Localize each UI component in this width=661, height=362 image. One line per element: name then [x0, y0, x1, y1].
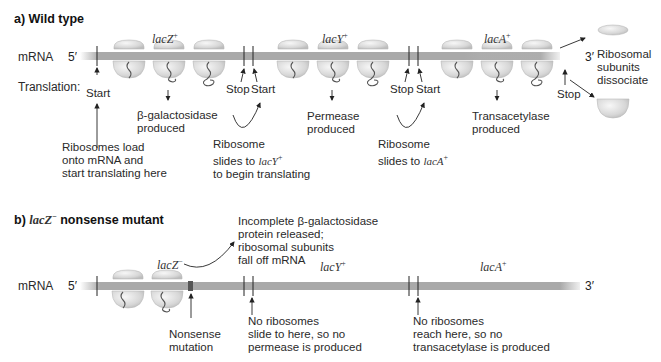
gene-label-lacy: lacY+	[322, 31, 348, 47]
gene-label-laca: lacA+	[484, 31, 511, 47]
small-subunit-icon	[598, 25, 628, 35]
large-subunit-icon	[597, 99, 629, 118]
ribosome-group-a	[113, 25, 629, 118]
three-prime-label-b: 3′	[585, 279, 594, 293]
note-ribosomes-load: Ribosomes loadonto mRNA andstart transla…	[62, 141, 167, 180]
three-prime-label: 3′	[585, 50, 594, 64]
stop-marker-lacy: Stop	[390, 83, 414, 96]
five-prime-label: 5′	[68, 50, 77, 64]
diagram-graphics	[0, 0, 661, 362]
note-no-permease: No ribosomesslide to here, so nopermease…	[248, 315, 362, 354]
start-marker-lacz: Start	[86, 87, 110, 100]
translation-label: Translation:	[18, 80, 80, 94]
nonsense-mutation-marker	[188, 281, 193, 291]
product-transacetylase: Transacetylaseproduced	[472, 110, 550, 136]
start-marker-lacy: Start	[251, 83, 275, 96]
gene-label-laca-b: lacA+	[480, 259, 507, 275]
product-permease: Permeaseproduced	[307, 110, 359, 136]
gene-label-lacz-minus: lacZ−	[157, 257, 183, 273]
mrna-strand-overlay	[80, 52, 560, 60]
product-bgal: β-galactosidaseproduced	[137, 109, 218, 135]
note-nonsense-mutation: Nonsensemutation	[169, 328, 221, 354]
mrna-label-b: mRNA	[18, 279, 53, 293]
note-slide-to-lacy: Ribosome slides to lacY+ to begin transl…	[213, 138, 310, 181]
panel-a-title: a) Wild type	[14, 12, 84, 26]
note-slide-to-laca: Ribosome slides to lacA+	[378, 138, 448, 168]
stop-marker-laca: Stop	[557, 88, 581, 101]
stop-marker-lacz: Stop	[226, 83, 250, 96]
five-prime-label-b: 5′	[68, 279, 77, 293]
note-subunits-dissociate: Ribosomalsubunitsdissociate	[597, 48, 651, 87]
mrna-label: mRNA	[18, 50, 53, 64]
note-no-transacetylase: No ribosomesreach here, so notransacetyl…	[413, 315, 550, 354]
gene-label-lacz: lacZ+	[152, 31, 178, 47]
note-incomplete-protein: Incomplete β-galactosidaseprotein releas…	[238, 215, 378, 267]
start-marker-laca: Start	[416, 83, 440, 96]
panel-b-title: b) lacZ− nonsense mutant	[14, 212, 164, 228]
